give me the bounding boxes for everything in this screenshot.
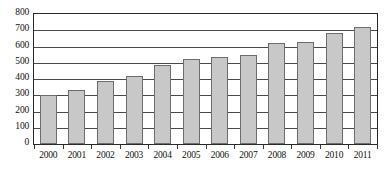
bar-2004 xyxy=(154,65,171,144)
x-tick-mark-10 xyxy=(320,145,321,149)
bars-layer xyxy=(34,14,377,144)
y-tick-label-500: 500 xyxy=(0,57,29,67)
x-tick-mark-6 xyxy=(206,145,207,149)
x-tick-mark-0 xyxy=(34,145,35,149)
y-tick-label-300: 300 xyxy=(0,89,29,99)
y-tick-label-700: 700 xyxy=(0,24,29,34)
bar-2008 xyxy=(268,43,285,144)
x-tick-mark-4 xyxy=(148,145,149,149)
y-tick-label-0: 0 xyxy=(0,138,29,148)
x-tick-label-2011: 2011 xyxy=(346,150,380,161)
bar-2005 xyxy=(183,59,200,144)
bar-2009 xyxy=(297,42,314,144)
bar-2001 xyxy=(68,90,85,144)
x-tick-mark-2 xyxy=(91,145,92,149)
x-tick-mark-11 xyxy=(348,145,349,149)
x-tick-mark-12 xyxy=(377,145,378,149)
bar-2006 xyxy=(211,57,228,144)
bar-2007 xyxy=(240,55,257,144)
y-tick-label-200: 200 xyxy=(0,106,29,116)
x-tick-mark-8 xyxy=(263,145,264,149)
x-tick-mark-1 xyxy=(63,145,64,149)
x-axis-tick-labels: 2000200120022003200420052006200720082009… xyxy=(33,150,378,164)
x-tick-mark-3 xyxy=(120,145,121,149)
bar-2002 xyxy=(97,81,114,144)
bar-2003 xyxy=(126,76,143,144)
x-tick-mark-5 xyxy=(177,145,178,149)
bar-chart-figure: 0100200300400500600700800 20002001200220… xyxy=(0,0,390,170)
y-tick-label-600: 600 xyxy=(0,41,29,51)
y-tick-label-100: 100 xyxy=(0,122,29,132)
y-tick-label-800: 800 xyxy=(0,8,29,18)
bar-2011 xyxy=(354,27,371,144)
x-tick-mark-7 xyxy=(234,145,235,149)
y-tick-label-400: 400 xyxy=(0,73,29,83)
x-tick-mark-9 xyxy=(291,145,292,149)
bar-2000 xyxy=(40,95,57,144)
bar-2010 xyxy=(326,33,343,144)
x-axis-tick-marks xyxy=(33,145,378,149)
